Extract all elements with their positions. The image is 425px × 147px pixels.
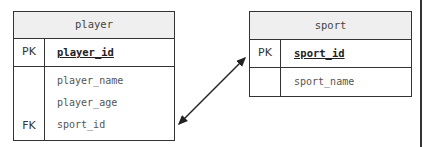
page-edge-line [420,0,422,147]
relationship-arrow-icon [0,0,425,147]
